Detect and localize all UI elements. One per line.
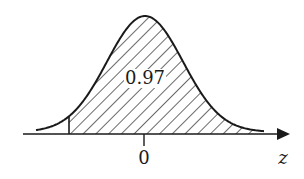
tick-label-zero: 0 xyxy=(138,147,149,168)
axis-label-z: z xyxy=(277,147,288,168)
normal-curve-plot: 0.97 0 z xyxy=(0,0,304,179)
axis-arrowhead-icon xyxy=(277,128,290,140)
normal-distribution-figure: 0.97 0 z xyxy=(0,0,304,179)
area-label: 0.97 xyxy=(125,67,165,88)
